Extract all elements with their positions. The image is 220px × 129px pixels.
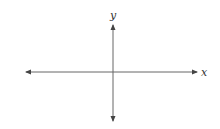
y-axis-label: y bbox=[109, 9, 117, 22]
coordinate-plane: x y bbox=[0, 0, 220, 129]
x-axis-label: x bbox=[201, 66, 208, 79]
